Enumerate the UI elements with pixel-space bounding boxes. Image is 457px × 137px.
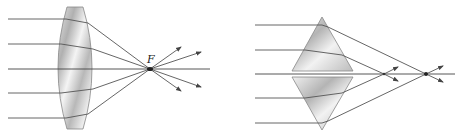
lens-panel: F [8, 7, 210, 129]
prism-panel [255, 17, 455, 130]
converging-ray-4 [93, 69, 150, 89]
converging-ray-2 [93, 49, 150, 69]
outer-crossing-point-icon [424, 72, 428, 76]
focal-label: F [146, 53, 155, 66]
diverging-ray-1 [150, 47, 181, 69]
optics-diagram: F [0, 0, 457, 137]
inner-crossing-point-icon [383, 73, 386, 76]
diverging-ray-4 [150, 69, 201, 87]
biconvex-lens [58, 7, 92, 129]
converging-ray-5 [88, 69, 150, 114]
diagram-svg: F [0, 0, 457, 137]
prism-diverging-ray-2 [384, 67, 398, 74]
converging-ray-1 [88, 23, 150, 69]
prism-diverging-ray-1 [426, 66, 443, 74]
prism-diverging-ray-4 [384, 74, 398, 81]
diverging-ray-2 [150, 52, 201, 69]
diverging-ray-5 [150, 69, 181, 91]
lower-prism [292, 77, 353, 130]
focal-point-icon [147, 67, 153, 71]
prism-diverging-ray-5 [426, 74, 443, 82]
